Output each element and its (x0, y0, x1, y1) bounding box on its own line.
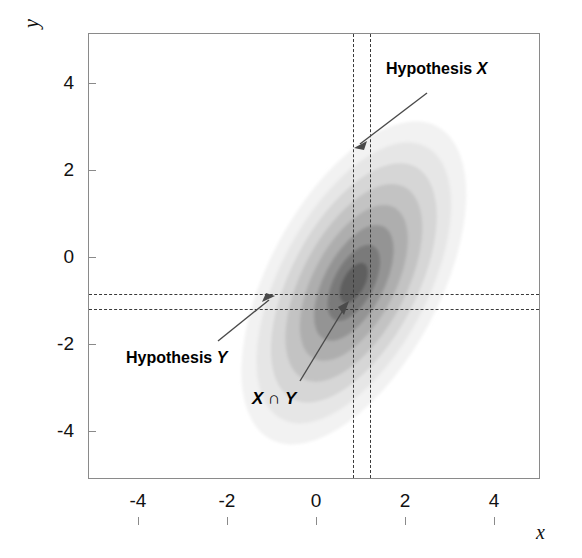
y-tick-0 (88, 257, 96, 258)
x-ticklabel-minus4: -4 (108, 490, 168, 512)
annotation-hypothesis-x-symbol: X (477, 60, 488, 77)
plot-area (88, 33, 540, 479)
annotation-hypothesis-y: Hypothesis Y (126, 349, 227, 367)
x-tick-2 (405, 517, 406, 525)
hypothesis-x-line-low (353, 34, 354, 478)
hypothesis-y-line-low (89, 309, 539, 310)
annotation-intersection-operator: ∩ (263, 389, 285, 408)
x-ticklabel-4: 4 (464, 490, 524, 512)
y-tick-4 (88, 83, 96, 84)
y-tick-2 (88, 170, 96, 171)
y-axis-title: y (20, 19, 43, 28)
y-ticklabel-0: 0 (14, 246, 74, 268)
figure-canvas: -4 -2 0 2 4 4 2 0 -2 -4 x y Hypothesis X… (0, 0, 582, 558)
x-tick-minus4 (138, 517, 139, 525)
x-ticklabel-2: 2 (375, 490, 435, 512)
x-ticklabel-0: 0 (286, 490, 346, 512)
x-axis-title: x (536, 521, 545, 544)
y-ticklabel-4: 4 (14, 72, 74, 94)
y-ticklabel-minus2: -2 (14, 333, 74, 355)
y-tick-minus2 (88, 344, 96, 345)
annotation-intersection-x: X (252, 389, 263, 408)
hypothesis-y-line-high (89, 294, 539, 295)
annotation-hypothesis-y-prefix: Hypothesis (126, 349, 217, 366)
contour-band-group (195, 86, 513, 478)
x-tick-4 (494, 517, 495, 525)
x-ticklabel-minus2: -2 (197, 490, 257, 512)
annotation-hypothesis-y-symbol: Y (217, 349, 228, 366)
annotation-hypothesis-x: Hypothesis X (386, 60, 487, 78)
y-ticklabel-2: 2 (14, 159, 74, 181)
x-tick-0 (316, 517, 317, 525)
hypothesis-x-line-high (370, 34, 371, 478)
annotation-hypothesis-x-prefix: Hypothesis (386, 60, 477, 77)
y-tick-minus4 (88, 431, 96, 432)
annotation-intersection: X ∩ Y (252, 389, 296, 409)
x-tick-minus2 (227, 517, 228, 525)
y-ticklabel-minus4: -4 (14, 420, 74, 442)
density-contour-plot (89, 34, 539, 478)
annotation-intersection-y: Y (285, 389, 296, 408)
